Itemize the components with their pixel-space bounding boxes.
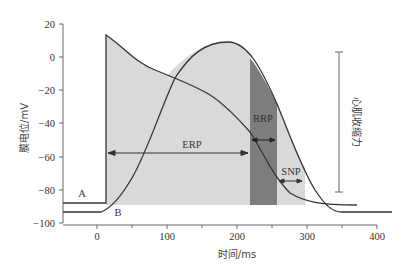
y-tick-m40: −40 [39,118,55,129]
y-tick-m60: −60 [39,152,55,163]
x-axis [63,225,377,229]
curve-a-label: A [78,188,86,199]
contraction-force-label: 心肌收缩力 [351,97,363,147]
rrp-region [250,58,277,205]
x-axis-title: 时间/ms [218,248,256,260]
action-potential-chart: 20 0 −20 −40 −60 −80 −100 0 100 200 300 … [0,0,405,273]
x-tick-labels: 0 100 200 300 400 [94,231,385,242]
y-tick-m20: −20 [39,85,55,96]
erp-label: ERP [182,139,201,150]
y-axis [59,24,63,223]
x-tick-200: 200 [229,231,245,242]
y-tick-labels: 20 0 −20 −40 −60 −80 −100 [33,19,55,229]
x-tick-400: 400 [369,231,385,242]
x-tick-0: 0 [94,231,99,242]
rrp-label: RRP [253,113,273,124]
y-tick-0: 0 [50,52,55,63]
snp-label: SNP [281,166,300,177]
snp-region [277,104,305,205]
curve-b-label: B [114,207,121,218]
y-tick-m100: −100 [33,218,55,229]
y-tick-m80: −80 [39,185,55,196]
x-tick-300: 300 [299,231,315,242]
y-tick-20: 20 [45,19,56,30]
x-tick-100: 100 [159,231,175,242]
y-axis-title: 膜电位/mV [18,103,30,153]
shaded-regions [106,35,305,205]
contraction-scale-bar [335,52,343,192]
